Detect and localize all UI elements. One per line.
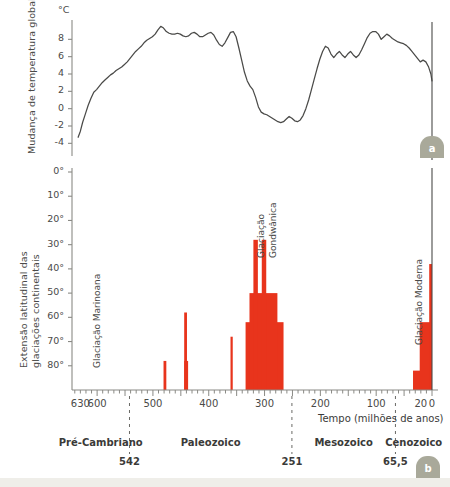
glaciation-axis-title-line1: Extensão latitudinal das [18, 251, 29, 368]
temperature-y-tick-label: -4 [42, 136, 64, 147]
glaciation-bar [164, 361, 167, 390]
glaciation-y-tick-label: 10° [40, 189, 64, 200]
glaciation-label-gondwanica-line2: Gondwânica [268, 203, 278, 258]
panel-a-badge: a [420, 136, 444, 158]
glaciation-y-tick-label: 70° [40, 335, 64, 346]
glaciation-axis-title-line2: glaciações continentais [30, 254, 41, 368]
temperature-y-tick-label: 8 [42, 32, 64, 43]
glaciation-y-tick-label: 60° [40, 310, 64, 321]
glaciation-y-tick-label: 30° [40, 238, 64, 249]
era-boundary-label: 251 [267, 456, 317, 467]
glaciation-label-marinoana: Glaciação Marinoana [92, 274, 102, 368]
glaciation-y-tick-label: 50° [40, 286, 64, 297]
time-axis-title: Tempo (milhões de anos) [318, 413, 444, 424]
glaciation-y-tick-label: 80° [40, 359, 64, 370]
glaciation-label-gondwanica-line1: Glaciação [256, 214, 266, 258]
time-tick-label: 0 [415, 398, 449, 409]
era-label: Pré-Cambriano [41, 437, 161, 448]
glaciation-bar [184, 312, 187, 390]
glaciation-label-moderna: Glaciação Moderna [414, 259, 424, 345]
glaciation-bar [253, 240, 257, 390]
glaciation-y-tick-label: 0° [40, 165, 64, 176]
glaciation-y-tick-label: 40° [40, 262, 64, 273]
time-tick-label: 300 [248, 398, 282, 409]
temperature-curve [78, 26, 432, 137]
time-tick-label: 100 [359, 398, 393, 409]
temperature-y-tick-label: 2 [42, 84, 64, 95]
time-tick-label: 400 [192, 398, 226, 409]
era-label: Paleozoico [151, 437, 271, 448]
bottom-strip [0, 478, 450, 487]
temperature-y-tick-label: 0 [42, 102, 64, 113]
temperature-y-tick-label: 4 [42, 67, 64, 78]
time-tick-label: 600 [80, 398, 114, 409]
glaciation-y-tick-label: 20° [40, 213, 64, 224]
geological-climate-figure: 86420-2-4°CMudança de temperatura global… [0, 0, 450, 487]
panel-b-badge: b [416, 456, 440, 478]
era-label: Cenozoico [354, 437, 450, 448]
temperature-y-tick-label: -2 [42, 119, 64, 130]
temperature-axis-title: Mudança de temperatura global [26, 0, 37, 154]
era-boundary-label: 65,5 [370, 456, 420, 467]
glaciation-bar [231, 337, 233, 390]
temperature-unit-label: °C [58, 4, 69, 15]
temperature-y-tick-label: 6 [42, 50, 64, 61]
era-boundary-label: 542 [104, 456, 154, 467]
glaciation-bar [262, 240, 266, 390]
time-tick-label: 200 [303, 398, 337, 409]
time-tick-label: 500 [136, 398, 170, 409]
